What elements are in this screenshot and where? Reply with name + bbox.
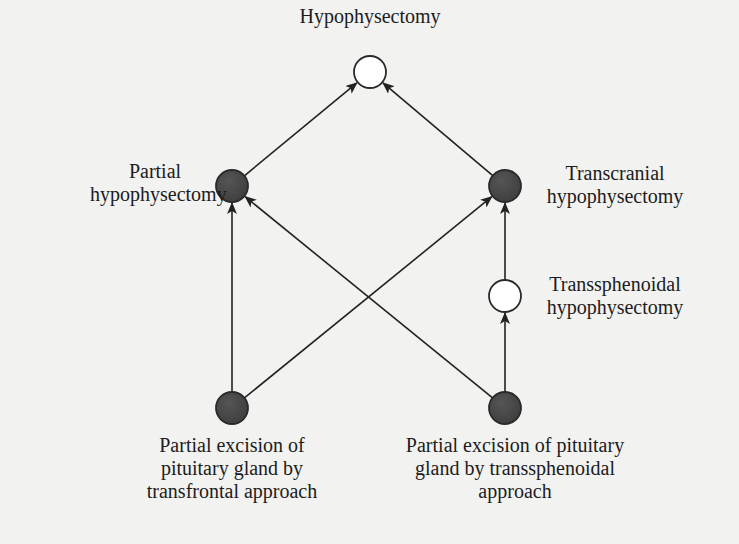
label-hypophysectomy: Hypophysectomy [270,5,470,28]
node-transcranial_hypophysectomy [489,170,521,202]
node-partial_excision_transfrontal [216,392,248,424]
edge-transcranial_hypophysectomy-to-hypophysectomy [383,83,493,176]
label-line: Partial [90,160,220,183]
edges-group [232,83,505,398]
label-transsphenoidal-hypophysectomy: Transsphenoidal hypophysectomy [530,273,700,319]
label-line: hypophysectomy [90,183,220,206]
nodes-group [216,56,521,424]
label-partial-excision-transfrontal: Partial excision of pituitary gland by t… [122,434,342,503]
node-transsphenoidal_hypophysectomy [489,280,521,312]
label-line: transfrontal approach [122,480,342,503]
edge-partial_hypophysectomy-to-hypophysectomy [244,83,357,176]
label-line: Partial excision of [122,434,342,457]
label-line: Transsphenoidal [530,273,700,296]
label-transcranial-hypophysectomy: Transcranial hypophysectomy [530,162,700,208]
label-line: Hypophysectomy [270,5,470,28]
label-line: Partial excision of pituitary [380,434,650,457]
node-partial_excision_transsphenoidal [489,392,521,424]
label-line: hypophysectomy [530,185,700,208]
label-line: Transcranial [530,162,700,185]
label-line: gland by transsphenoidal [380,457,650,480]
label-line: hypophysectomy [530,296,700,319]
label-partial-excision-transsphenoidal: Partial excision of pituitary gland by t… [380,434,650,503]
label-line: pituitary gland by [122,457,342,480]
label-partial-hypophysectomy: Partial hypophysectomy [90,160,220,206]
node-hypophysectomy [354,56,386,88]
label-line: approach [380,480,650,503]
